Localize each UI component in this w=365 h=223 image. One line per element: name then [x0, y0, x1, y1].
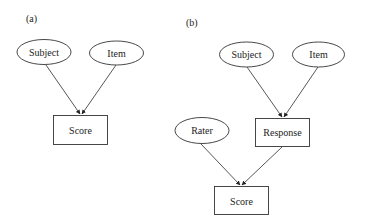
node-subject: Subject [17, 40, 71, 65]
diagram-canvas: (a) Subject Item Score (b) Subjec [0, 0, 365, 223]
item-label-b: Item [309, 49, 328, 60]
node-rater: Rater [175, 118, 229, 144]
node-subject-b: Subject [220, 42, 274, 67]
panel-a-label: (a) [26, 13, 37, 25]
edge-item-to-response [284, 67, 318, 117]
response-label: Response [263, 127, 302, 138]
rater-label: Rater [191, 125, 213, 136]
node-item: Item [90, 41, 144, 65]
panel-b: (b) Subject Item Response Rater Sc [175, 17, 345, 215]
item-label: Item [107, 48, 126, 59]
panel-a: (a) Subject Item Score [17, 13, 144, 145]
node-item-b: Item [293, 42, 345, 67]
panel-b-label: (b) [186, 17, 198, 29]
edge-item-to-score [82, 65, 116, 114]
score-label-b: Score [230, 196, 253, 207]
subject-label-b: Subject [232, 49, 262, 60]
subject-label: Subject [29, 47, 59, 58]
score-label: Score [69, 125, 92, 136]
node-score-b: Score [215, 187, 269, 215]
edge-response-to-score [242, 147, 282, 185]
node-score: Score [54, 116, 108, 145]
edge-rater-to-score [201, 144, 240, 185]
edge-subject-to-score [46, 65, 80, 114]
edge-subject-to-response [247, 67, 282, 117]
node-response: Response [256, 119, 310, 147]
